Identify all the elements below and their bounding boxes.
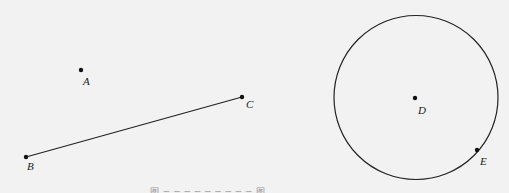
figure-caption: 图 ─ ─ ─ ─ ─ ─ ─ ─ ─ 图 [150, 186, 380, 193]
point-d [413, 96, 417, 100]
point-b [24, 155, 28, 159]
point-a [79, 68, 83, 72]
label-d: D [418, 105, 426, 116]
geometry-figure [0, 0, 509, 193]
label-c: C [246, 99, 253, 110]
label-e: E [480, 156, 487, 167]
point-c [240, 95, 244, 99]
label-a: A [83, 76, 90, 87]
segment-bc [26, 97, 242, 157]
label-b: B [27, 161, 34, 172]
point-e [475, 148, 479, 152]
